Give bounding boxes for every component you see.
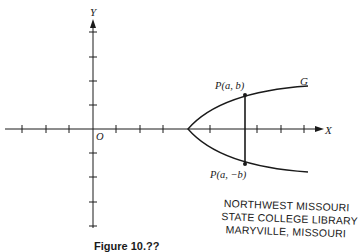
library-stamp: NORTHWEST MISSOURI STATE COLLEGE LIBRARY… (221, 197, 352, 241)
y-axis (89, 19, 97, 228)
figure-caption: Figure 10.?? (94, 240, 159, 252)
x-axis-label: X (324, 124, 333, 136)
point-p-upper-marker (243, 93, 247, 97)
x-axis (5, 125, 324, 133)
y-axis-arrow-icon (90, 19, 96, 28)
origin-label: O (96, 131, 104, 142)
y-axis-label: Y (90, 6, 98, 18)
point-p-lower-marker (243, 162, 247, 166)
curve-label-g: G (300, 75, 308, 87)
x-axis-arrow-icon (315, 126, 324, 132)
point-p-lower-label: P(a, −b) (209, 169, 247, 181)
point-p-upper-label: P(a, b) (214, 80, 245, 92)
